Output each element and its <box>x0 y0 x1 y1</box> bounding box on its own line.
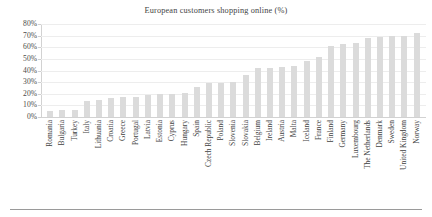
x-axis-label-slot: Slovakia <box>240 120 252 200</box>
x-axis-category-label: Portugal <box>132 120 139 145</box>
bar[interactable] <box>377 37 383 117</box>
bar-slot <box>301 24 313 117</box>
x-axis-label-slot: Finland <box>325 120 337 200</box>
x-axis-label-slot: Spain <box>191 120 203 200</box>
x-axis-label-slot: Poland <box>215 120 227 200</box>
bar[interactable] <box>96 100 102 117</box>
bar-slot <box>142 24 154 117</box>
bar[interactable] <box>84 101 90 117</box>
x-axis-label-slot: Italy <box>81 120 93 200</box>
bar[interactable] <box>279 67 285 117</box>
x-axis-label-slot: Sweden <box>386 120 398 200</box>
x-axis-category-label: Hungary <box>181 120 188 146</box>
bar[interactable] <box>145 95 151 117</box>
bar[interactable] <box>218 83 224 117</box>
y-axis-tick-label: 0% <box>0 113 37 121</box>
chart-figure: European customers shopping online (%) 8… <box>0 0 432 217</box>
bar-slot <box>154 24 166 117</box>
x-axis-label-slot: Ireland <box>264 120 276 200</box>
x-axis-label-slot: Iceland <box>301 120 313 200</box>
x-axis-category-label: Norway <box>413 120 420 144</box>
bar-slot <box>386 24 398 117</box>
x-axis-label-slot: Malta <box>288 120 300 200</box>
x-axis-category-label: Ireland <box>266 120 273 141</box>
x-axis-category-label: Latvia <box>144 120 151 139</box>
bar-slot <box>178 24 190 117</box>
plot-area <box>41 24 426 117</box>
x-axis-category-label: Finland <box>327 120 334 143</box>
bar-slot <box>130 24 142 117</box>
bar[interactable] <box>291 66 297 117</box>
x-axis-label-slot: Romania <box>44 120 56 200</box>
x-axis-category-label: Slovenia <box>230 120 237 146</box>
bar[interactable] <box>414 33 420 117</box>
bar-slot <box>288 24 300 117</box>
y-axis-tick-label: 30% <box>0 78 37 86</box>
bar[interactable] <box>401 36 407 117</box>
x-axis-label-slot: Portugal <box>130 120 142 200</box>
x-axis-category-label: Czech Republic <box>205 120 212 167</box>
bar[interactable] <box>255 68 261 117</box>
bar[interactable] <box>206 83 212 117</box>
bar[interactable] <box>353 43 359 117</box>
y-axis-tick-label: 10% <box>0 101 37 109</box>
bar[interactable] <box>59 110 65 117</box>
bar-slot <box>117 24 129 117</box>
x-axis-category-label: Slovakia <box>242 120 249 146</box>
x-axis-category-label: Croatia <box>108 120 115 142</box>
x-axis-category-label: Spain <box>193 120 200 137</box>
bar[interactable] <box>267 68 273 117</box>
y-axis-tick-label: 60% <box>0 43 37 51</box>
bar[interactable] <box>47 111 53 117</box>
bar-slot <box>337 24 349 117</box>
bar[interactable] <box>157 94 163 117</box>
x-axis-label-slot: Greece <box>117 120 129 200</box>
bar[interactable] <box>72 110 78 117</box>
y-axis-tick-label: 80% <box>0 20 37 28</box>
x-axis-category-label: Greece <box>120 120 127 141</box>
bar-slot <box>166 24 178 117</box>
x-axis-label-slot: Germany <box>337 120 349 200</box>
x-axis-category-label: Romania <box>46 120 53 147</box>
y-axis-tick-label: 40% <box>0 67 37 75</box>
x-axis-category-label: Bulgaria <box>59 120 66 145</box>
bar[interactable] <box>316 57 322 117</box>
bar-slot <box>240 24 252 117</box>
x-axis-category-label: United Kingdom <box>401 120 408 170</box>
bar-slot <box>325 24 337 117</box>
bar[interactable] <box>120 97 126 117</box>
bar[interactable] <box>328 46 334 117</box>
bar[interactable] <box>169 94 175 117</box>
bar-slot <box>191 24 203 117</box>
x-axis-category-label: Austria <box>279 120 286 142</box>
x-axis-label-slot: Slovenia <box>227 120 239 200</box>
bar-slot <box>203 24 215 117</box>
x-axis-label-slot: Lithuania <box>93 120 105 200</box>
bar[interactable] <box>304 61 310 117</box>
bar-slot <box>56 24 68 117</box>
bar-slot <box>411 24 423 117</box>
x-axis-category-label: Cyprus <box>169 120 176 141</box>
x-axis-category-label: Poland <box>217 120 224 141</box>
bar-slot <box>93 24 105 117</box>
bar[interactable] <box>133 97 139 117</box>
bar[interactable] <box>182 93 188 117</box>
x-axis-line <box>41 117 426 118</box>
bar-slot <box>276 24 288 117</box>
bar-slot <box>81 24 93 117</box>
bar[interactable] <box>389 36 395 117</box>
x-axis-category-label: Estonia <box>156 120 163 142</box>
bar[interactable] <box>108 98 114 117</box>
x-axis-category-label: Lithuania <box>95 120 102 148</box>
bar[interactable] <box>194 87 200 117</box>
x-axis-label-slot: Turkey <box>68 120 80 200</box>
x-axis-label-slot: Latvia <box>142 120 154 200</box>
bar[interactable] <box>243 75 249 117</box>
bar[interactable] <box>365 38 371 117</box>
bar[interactable] <box>340 44 346 117</box>
bar-slot <box>252 24 264 117</box>
bar[interactable] <box>230 82 236 117</box>
footer-divider <box>10 209 422 210</box>
x-axis-category-label: France <box>315 120 322 140</box>
x-axis-category-label: The Netherlands <box>364 120 371 169</box>
